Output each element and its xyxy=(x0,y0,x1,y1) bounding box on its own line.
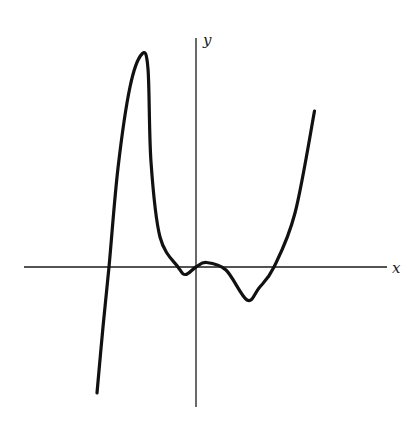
function-graph: x y xyxy=(0,0,419,422)
curve-point-0 xyxy=(95,391,98,394)
curve-point-7 xyxy=(149,160,152,163)
curve-point-10 xyxy=(184,273,187,276)
curve-point-2 xyxy=(107,265,110,268)
curve-point-9 xyxy=(176,265,179,268)
curve-point-17 xyxy=(293,211,296,214)
curve-point-1 xyxy=(101,325,104,328)
curve-point-3 xyxy=(116,166,119,169)
curve-point-11 xyxy=(194,265,197,268)
curve-point-13 xyxy=(224,268,227,271)
curve-point-5 xyxy=(140,52,143,55)
curve-point-12 xyxy=(205,261,208,264)
curve-point-15 xyxy=(257,286,260,289)
curve-point-18 xyxy=(313,109,316,112)
curve-point-16 xyxy=(272,265,275,268)
curve-point-8 xyxy=(158,235,161,238)
function-curve xyxy=(97,53,315,393)
curve-point-4 xyxy=(128,85,131,88)
curve-points xyxy=(95,52,316,394)
y-axis-label: y xyxy=(202,31,212,49)
curve-point-14 xyxy=(245,298,248,301)
curve-point-6 xyxy=(146,67,149,70)
x-axis-label: x xyxy=(392,259,401,277)
